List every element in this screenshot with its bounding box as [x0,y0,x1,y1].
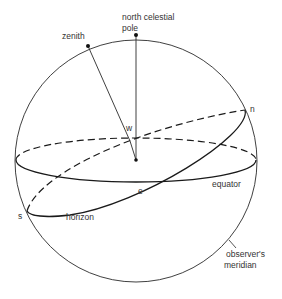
center-point [134,158,138,162]
pole-label-line1: north celestial [122,12,175,22]
meridian-label-line2: meridian [224,260,257,270]
zenith-line [88,46,130,141]
south-label: s [18,211,22,221]
pole-label-line2: pole [122,23,138,33]
equator-label: equator [212,179,241,189]
east-label: e [138,186,143,196]
meridian-leader-line [229,240,236,248]
horizon-label: horizon [66,212,94,222]
west-label: w [125,123,133,133]
meridian-label-line1: observer's [226,249,265,259]
north-label: n [250,104,255,114]
zenith-label: zenith [62,31,85,41]
zenith-to-center-line [130,141,136,160]
celestial-sphere-diagram: north celestial pole zenith w n e s equa… [0,0,282,299]
pole-point [134,33,138,37]
zenith-point [86,44,90,48]
